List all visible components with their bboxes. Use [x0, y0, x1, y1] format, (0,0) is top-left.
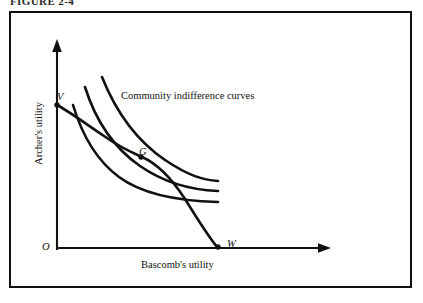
figure-caption: FIGURE 2-4 [10, 0, 74, 6]
y-axis-label: Archer's utility [33, 86, 44, 182]
origin-label: O [42, 241, 50, 252]
community-indifference-curves-annotation: Community indifference curves [121, 90, 254, 101]
point-label-g: G [139, 146, 147, 157]
point-label-w: W [227, 238, 236, 249]
figure-frame-border [9, 11, 412, 288]
x-axis-label: Bascomb's utility [141, 259, 214, 270]
point-label-v: V [57, 91, 63, 102]
